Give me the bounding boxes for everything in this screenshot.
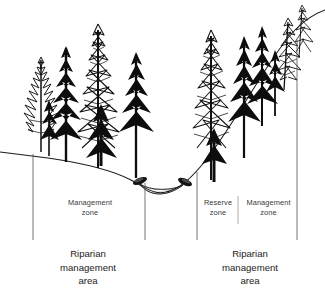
- conifer-tree-outline: [278, 18, 301, 90]
- label-riparian-management-area-left: Riparian management area: [28, 247, 148, 288]
- conifer-tree-solid: [50, 46, 82, 162]
- stream-water-surface: [140, 184, 183, 194]
- conifer-tree-outline-small: [295, 5, 313, 58]
- conifer-tree-solid-small: [40, 100, 59, 156]
- label-management-zone-right: Management zone: [240, 198, 297, 218]
- riparian-management-diagram: Management zone Reserve zone Management …: [0, 0, 325, 307]
- conifer-tree-solid: [86, 104, 117, 166]
- label-riparian-management-area-right: Riparian management area: [190, 247, 310, 288]
- label-reserve-zone: Reserve zone: [198, 198, 238, 218]
- label-management-zone-left: Management zone: [38, 198, 142, 218]
- conifer-tree-solid: [119, 52, 154, 178]
